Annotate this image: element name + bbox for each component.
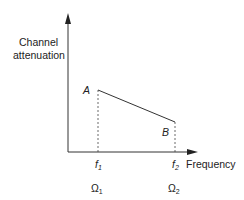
point-b-label: B	[162, 126, 169, 138]
y-axis-label-line1: Channel	[19, 36, 58, 48]
point-a-label: A	[83, 84, 90, 96]
y-axis-label-line2: attenuation	[13, 49, 65, 61]
tick-f1-label: f1	[95, 158, 102, 174]
tick-omega1-label: Ω1	[91, 182, 103, 198]
y-axis-arrow-icon	[65, 13, 71, 24]
attenuation-line	[98, 90, 175, 122]
tick-omega2-label: Ω2	[168, 182, 180, 198]
tick-f2-label: f2	[172, 158, 179, 174]
diagram-canvas	[0, 0, 244, 200]
x-axis-arrow-icon	[187, 149, 198, 155]
x-axis-label: Frequency	[186, 158, 236, 170]
